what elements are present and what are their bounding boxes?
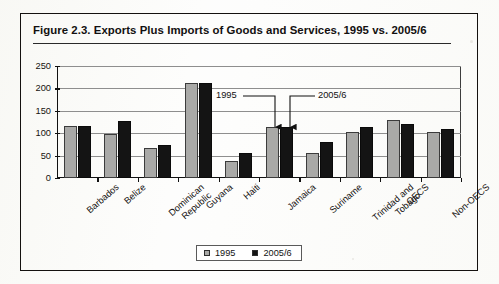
y-tick-label: 50 [21,151,51,161]
y-tick-label: 200 [21,83,51,93]
legend-item-1995[interactable]: 1995 [204,248,235,258]
y-tick-label: 150 [21,106,51,116]
x-axis-labels: BarbadosBelizeDominicanRepublicGuyanaHai… [57,180,477,240]
bar-group [57,66,97,178]
bar-group [259,66,299,178]
bar-group [421,66,461,178]
x-axis-label: Belize [122,182,148,206]
figure-title: Figure 2.3. Exports Plus Imports of Good… [33,24,453,36]
bar-1995[interactable] [64,126,77,178]
legend-label-2005: 2005/6 [263,248,291,258]
bar-1995[interactable] [387,120,400,178]
bars-layer [57,66,461,178]
legend-item-2005[interactable]: 2005/6 [252,248,291,258]
chart-legend: 1995 2005/6 [196,245,302,261]
title-divider [33,43,451,44]
bar-2005-6[interactable] [78,126,91,178]
bar-2005-6[interactable] [118,121,131,178]
y-tick-mark [55,178,60,179]
x-axis-label: Non-OECS [450,182,492,220]
plot-area [57,66,461,178]
x-axis-label: Barbados [85,182,122,216]
bar-2005-6[interactable] [360,127,373,178]
bar-group [340,66,380,178]
x-axis-label: Haiti [241,182,262,202]
bar-2005-6[interactable] [280,127,293,178]
bar-2005-6[interactable] [401,124,414,178]
bar-1995[interactable] [104,134,117,178]
bar-group [299,66,339,178]
bar-group [178,66,218,178]
figure-container: Figure 2.3. Exports Plus Imports of Good… [0,0,499,284]
bar-2005-6[interactable] [320,142,333,178]
bar-2005-6[interactable] [441,129,454,178]
y-tick-label: 100 [21,128,51,138]
bar-1995[interactable] [266,127,279,178]
y-tick-label: 250 [21,61,51,71]
bar-2005-6[interactable] [199,83,212,178]
bar-1995[interactable] [427,132,440,178]
square-gray-icon [204,250,210,256]
bar-group [219,66,259,178]
bar-group [138,66,178,178]
bar-group [380,66,420,178]
bar-2005-6[interactable] [158,145,171,178]
bar-1995[interactable] [346,132,359,178]
square-black-icon [252,250,258,256]
annotation-2005: 2005/6 [318,90,346,100]
bar-1995[interactable] [225,161,238,178]
x-axis-label: Suriname [327,182,364,216]
bar-2005-6[interactable] [239,153,252,178]
bar-1995[interactable] [306,153,319,178]
y-tick-label: 0 [21,173,51,183]
annotation-1995: 1995 [216,90,237,100]
bar-1995[interactable] [185,83,198,178]
legend-label-1995: 1995 [215,248,235,258]
bar-group [97,66,137,178]
x-axis-label: Jamaica [286,182,319,212]
bar-1995[interactable] [144,148,157,178]
